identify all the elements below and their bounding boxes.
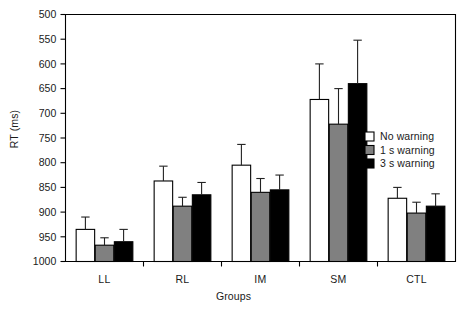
- bar-ll-s0: [76, 229, 95, 261]
- bar-sm-s2: [348, 84, 367, 262]
- bar-im-s1: [251, 192, 270, 261]
- bar-ctl-s0: [388, 198, 407, 261]
- bar-rl-s2: [192, 195, 211, 262]
- bar-im-s0: [232, 165, 251, 261]
- bar-ll-s2: [114, 242, 133, 262]
- bar-rl-s1: [173, 206, 192, 261]
- legend-swatch-0: [365, 132, 374, 141]
- legend-swatch-2: [365, 159, 374, 168]
- bar-chart-figure: RT (ms) Groups 1000950900850800750700650…: [0, 0, 467, 315]
- bar-sm-s1: [329, 124, 348, 261]
- legend-label-2: 3 s warning: [380, 157, 435, 169]
- bar-rl-s0: [154, 181, 173, 262]
- bar-im-s2: [270, 190, 289, 262]
- bar-ctl-s1: [407, 213, 426, 261]
- legend-label-1: 1 s warning: [380, 144, 435, 156]
- y-axis-ticks: [61, 15, 66, 262]
- legend-swatch-1: [365, 146, 374, 155]
- bar-ll-s1: [95, 245, 114, 261]
- bar-ctl-s2: [426, 206, 445, 261]
- chart-legend: No warning1 s warning3 s warning: [365, 130, 435, 169]
- legend-label-0: No warning: [380, 130, 434, 142]
- bar-sm-s0: [310, 99, 329, 261]
- bar-series-group: [76, 84, 445, 262]
- x-axis-ticks: [144, 262, 378, 267]
- plot-canvas: No warning1 s warning3 s warning: [0, 0, 467, 315]
